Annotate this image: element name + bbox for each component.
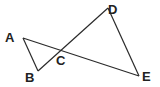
label-B: B	[25, 70, 34, 85]
segment-BD	[38, 8, 108, 71]
label-E: E	[142, 69, 151, 84]
segment-AE	[23, 38, 139, 76]
geometry-diagram: A B C D E	[0, 0, 160, 87]
segment-AB	[23, 38, 38, 71]
segment-DE	[108, 8, 139, 76]
label-D: D	[108, 2, 117, 17]
segments	[23, 8, 139, 76]
label-A: A	[5, 30, 15, 45]
label-C: C	[56, 53, 66, 68]
